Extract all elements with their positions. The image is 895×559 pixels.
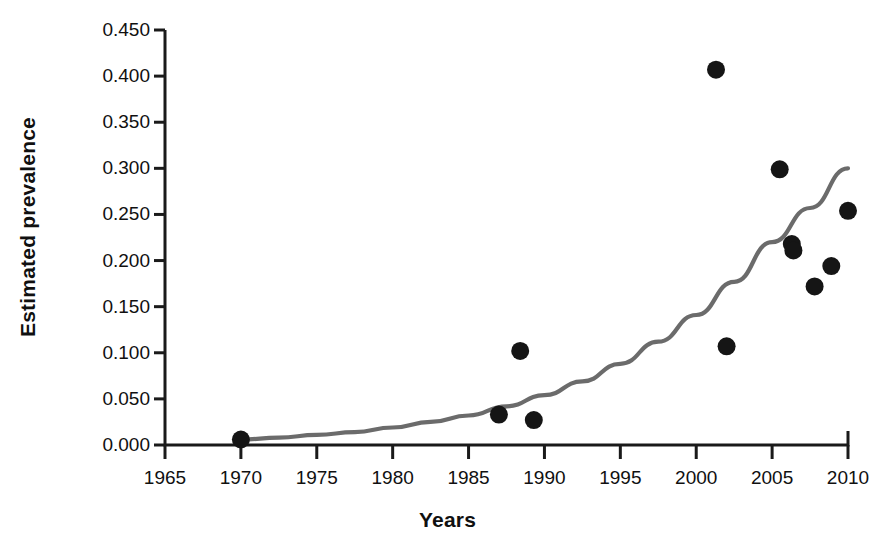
data-point	[707, 61, 725, 79]
data-point	[511, 342, 529, 360]
x-axis-tick-marks	[165, 445, 848, 459]
data-point	[718, 337, 736, 355]
data-point	[771, 160, 789, 178]
axis-frame	[165, 30, 848, 445]
data-point	[806, 277, 824, 295]
data-point	[232, 431, 250, 449]
axes	[154, 30, 848, 459]
data-point	[525, 411, 543, 429]
data-point	[839, 202, 857, 220]
data-point	[822, 257, 840, 275]
trend-line	[241, 168, 848, 439]
plot-area	[0, 0, 895, 559]
data-point	[490, 406, 508, 424]
data-points	[232, 61, 857, 449]
y-axis-tick-marks	[154, 30, 165, 445]
data-point	[784, 241, 802, 259]
chart-figure: Estimated prevalence Years 0.0000.0500.1…	[0, 0, 895, 559]
